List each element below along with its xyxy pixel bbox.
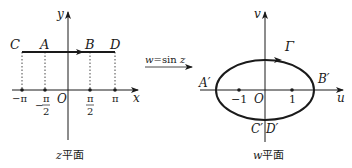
w-plane-caption: w平面 [253, 149, 284, 162]
point-label-d-prime: D′ [265, 122, 279, 136]
x-axis-label: x [133, 91, 140, 105]
tick-label-one: 1 [289, 93, 296, 106]
point-label-c: C [10, 37, 20, 52]
origin-label: O [254, 92, 264, 106]
z-plane-caption: z平面 [55, 149, 84, 162]
conformal-mapping-diagram: C A B D y x O −π − π 2 π 2 π z平面 w=sin z [0, 0, 352, 168]
v-axis-label: v [254, 7, 261, 21]
z-plane: C A B D y x O −π − π 2 π 2 π z平面 [10, 7, 140, 162]
mapping: w=sin z [145, 54, 192, 67]
origin-label: O [57, 92, 67, 106]
y-axis-label: y [56, 7, 64, 21]
tick-label-neg-one: −1 [231, 93, 247, 106]
tick-label-pi: π [112, 93, 119, 104]
point-label-b-prime: B′ [317, 72, 330, 86]
tick-label-half-pi-den: 2 [87, 106, 93, 117]
point-label-a-prime: A′ [198, 76, 211, 90]
point-label-d: D [109, 37, 121, 52]
w-plane: v u O −1 1 Γ A′ B′ C′ D′ w平面 [198, 7, 345, 162]
point-label-c-prime: C′ [251, 122, 263, 136]
point-label-a: A [39, 37, 49, 52]
u-axis-label: u [337, 91, 345, 105]
tick-label-half-pi-num: π [87, 93, 94, 104]
tick-label-neg-pi: −π [12, 93, 27, 104]
mapping-label: w=sin z [145, 54, 186, 65]
tick-label-neg-half-pi-num: π [43, 93, 50, 104]
tick-label-neg-half-pi-den: 2 [43, 106, 49, 117]
curve-label-gamma: Γ [284, 39, 295, 54]
point-label-b: B [84, 37, 95, 52]
